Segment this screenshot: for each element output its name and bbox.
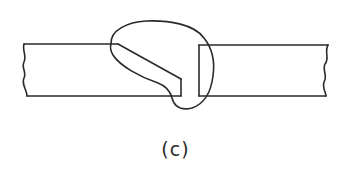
- right-plate: [199, 45, 328, 96]
- figure-caption: (c): [0, 138, 351, 160]
- left-plate: [23, 44, 181, 96]
